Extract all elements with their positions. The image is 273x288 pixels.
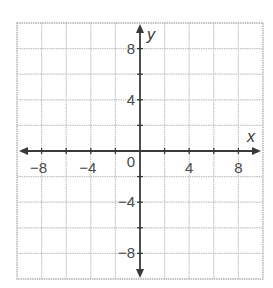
x-axis-arrow-right-icon (252, 147, 261, 155)
coordinate-plane: −8−404884−4−8 x y (0, 0, 273, 288)
y-tick-label: 8 (127, 40, 135, 57)
axes (19, 24, 261, 278)
x-tick-label: −4 (79, 159, 96, 176)
y-axis-arrow-down-icon (136, 269, 144, 278)
x-tick-label: −8 (30, 159, 47, 176)
x-tick-label: 4 (185, 159, 193, 176)
x-axis-label: x (246, 128, 256, 145)
x-tick-label: 8 (234, 159, 242, 176)
x-tick-label: 0 (127, 153, 135, 170)
y-tick-label: −4 (118, 193, 135, 210)
y-tick-label: −8 (118, 244, 135, 261)
x-axis-arrow-left-icon (19, 147, 28, 155)
y-axis-arrow-up-icon (136, 24, 144, 33)
y-axis-label: y (146, 26, 156, 43)
y-tick-label: 4 (127, 91, 135, 108)
